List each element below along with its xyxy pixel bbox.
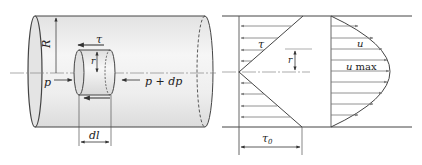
label-u: u bbox=[357, 38, 363, 49]
label-tau0: τ0 bbox=[262, 132, 273, 146]
label-r-left: r bbox=[91, 56, 96, 66]
laminar-pipe-flow-diagram: R r τ p p + dp dl bbox=[0, 0, 422, 165]
shear-profile-upper bbox=[239, 16, 303, 72]
label-r-middle: r bbox=[288, 55, 293, 65]
shear-arrows bbox=[241, 26, 291, 117]
label-p-plus-dp: p + dp bbox=[145, 75, 182, 88]
distribution-panel: τ r τ0 u umax bbox=[222, 16, 412, 155]
outer-pipe-left-end bbox=[28, 16, 42, 127]
label-tau-middle: τ bbox=[258, 38, 265, 51]
label-R: R bbox=[40, 40, 53, 49]
outer-pipe-body bbox=[35, 16, 213, 127]
pipe-panel: R r τ p p + dp dl bbox=[10, 16, 216, 146]
label-p: p bbox=[44, 76, 51, 89]
label-dl: dl bbox=[89, 129, 100, 142]
fluid-element-near-end bbox=[74, 50, 84, 95]
label-u-max: umax bbox=[346, 61, 377, 72]
label-tau-left: τ bbox=[96, 33, 103, 46]
shear-profile-lower bbox=[239, 72, 302, 127]
